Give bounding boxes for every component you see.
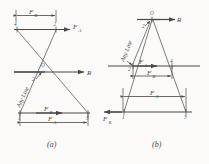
panel-a-bottom-force-sub: B: [50, 110, 53, 115]
panel-b-mid-force-label: F: [138, 58, 144, 66]
force-diagram-figure: F B 4 2 F A O 2 R Any Line 1 3 F B F A (…: [0, 0, 209, 164]
panel-a-bottom-dimension-label: F: [47, 115, 53, 123]
panel-a-origin-label: O: [41, 62, 45, 68]
panel-b-point-bottom-left: 1: [122, 114, 125, 120]
panel-a-point-center: 2: [32, 76, 35, 82]
panel-b-caption: (b): [152, 140, 162, 149]
panel-b-bottom-force-label: F: [102, 115, 108, 123]
panel-a-caption: (a): [47, 140, 57, 149]
panel-a-point-bottom-left: 1: [18, 115, 21, 121]
panel-a-top-force-label: F: [72, 23, 78, 31]
panel-a-point-bottom-right: 3: [86, 115, 89, 121]
panel-a-top-force-sub: A: [78, 28, 82, 33]
panel-a-point-top-left: 4: [14, 21, 17, 27]
panel-a-resultant-label: R: [86, 69, 92, 77]
panel-b-lower-dimension-label: F: [149, 89, 155, 97]
panel-b-bottom-force-sub: B: [109, 120, 112, 125]
panel-b-mid-dimension-sub: B: [153, 74, 156, 79]
panel-b-origin-label: O: [150, 10, 154, 16]
panel-b-mid-dimension-label: F: [146, 69, 152, 77]
panel-b-mid-force-sub: A: [144, 63, 148, 68]
panel-a-top-dimension-sub: B: [35, 13, 38, 18]
panel-b-point-mid-left: 2: [128, 66, 131, 72]
panel-b-point-mid-right: 4: [170, 58, 173, 64]
panel-b-resultant-label: R: [176, 16, 182, 24]
panel-b-lower-dimension-sub: A: [155, 94, 159, 99]
panel-b-point-top: 2: [142, 23, 145, 29]
panel-b-point-bottom-right: 3: [184, 114, 187, 120]
panel-a-top-dimension-label: F: [28, 8, 34, 16]
panel-a-bottom-force-label: F: [43, 105, 49, 113]
figure-background: [0, 0, 209, 164]
panel-a-bottom-dimension-sub: A: [53, 120, 57, 125]
figure-canvas: F B 4 2 F A O 2 R Any Line 1 3 F B F A (…: [0, 0, 209, 164]
panel-a-point-top-right: 2: [54, 21, 57, 27]
